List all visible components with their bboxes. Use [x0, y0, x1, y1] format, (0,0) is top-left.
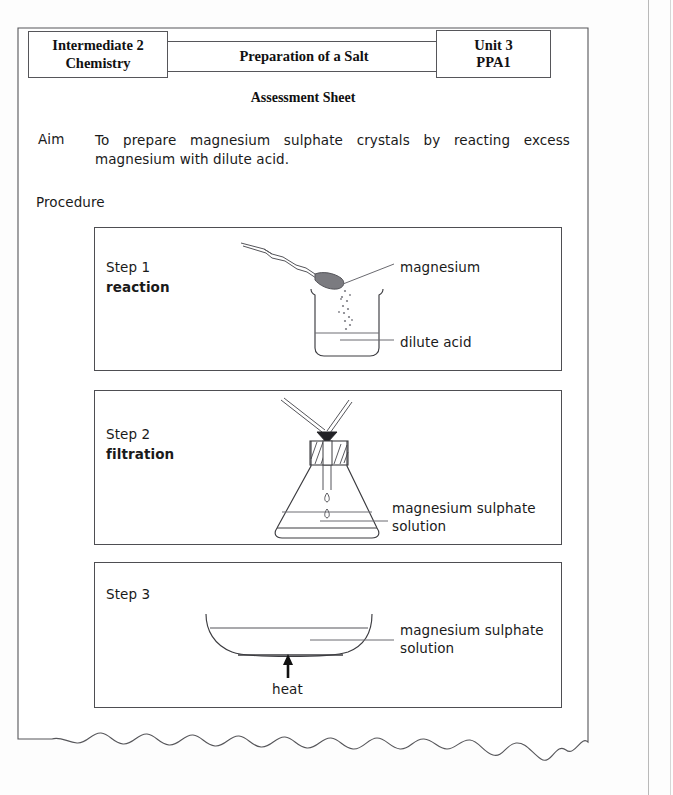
header-unit-line2: PPA1 [476, 54, 510, 70]
header-course-line2: Chemistry [65, 55, 130, 71]
label-magnesium-sulphate-solution-step3: magnesium sulphate solution [400, 621, 544, 657]
header-title-box: Preparation of a Salt [166, 41, 442, 72]
header-course-box: Intermediate 2 Chemistry [28, 31, 168, 78]
step-3-diagram [0, 0, 673, 795]
header-unit-line1: Unit 3 [474, 37, 512, 53]
header-title-text: Preparation of a Salt [239, 48, 368, 65]
header-unit-box: Unit 3 PPA1 [436, 30, 551, 78]
evaporating-basin-icon [206, 614, 372, 657]
heat-arrow-icon [283, 654, 293, 678]
label-heat: heat [272, 680, 303, 698]
header-course-line1: Intermediate 2 [52, 37, 143, 53]
